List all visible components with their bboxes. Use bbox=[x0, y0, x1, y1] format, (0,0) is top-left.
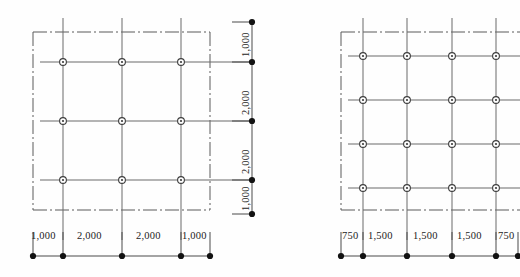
dimension-dot bbox=[360, 253, 366, 259]
dimension-label-h2: 1,500 bbox=[368, 231, 393, 242]
dimension-label-h5: 750 bbox=[498, 231, 514, 242]
column-grid-plan-right: 750 1,500 1,500 1,500 750 bbox=[320, 0, 520, 277]
dimension-dot bbox=[60, 253, 66, 259]
drawing-sheet: 1,000 2,000 2,000 1,000 1,000 2,000 2,00… bbox=[0, 0, 520, 277]
dimension-dot bbox=[249, 118, 255, 124]
left-grid-lines bbox=[40, 18, 252, 240]
dimension-label-h4: 1,500 bbox=[457, 231, 482, 242]
right-column-markers bbox=[360, 53, 500, 192]
dimension-dot bbox=[178, 253, 184, 259]
dimension-dot bbox=[249, 211, 255, 217]
dimension-dot bbox=[493, 253, 499, 259]
dimension-dot bbox=[338, 253, 344, 259]
dimension-dot bbox=[119, 253, 125, 259]
dimension-label-h2: 2,000 bbox=[77, 231, 102, 242]
dimension-label-v4: 1,000 bbox=[241, 186, 252, 211]
right-column-marker-centers bbox=[362, 55, 497, 189]
column-grid-plan-left: 1,000 2,000 2,000 1,000 1,000 2,000 2,00… bbox=[0, 0, 270, 277]
dimension-label-v1: 1,000 bbox=[241, 32, 252, 57]
right-grid-lines bbox=[348, 18, 520, 240]
dimension-dot bbox=[30, 253, 36, 259]
dimension-dot bbox=[249, 59, 255, 65]
dimension-label-v2: 2,000 bbox=[241, 90, 252, 115]
dimension-label-v3: 2,000 bbox=[241, 149, 252, 174]
dimension-label-h3: 1,500 bbox=[413, 231, 438, 242]
dimension-dot bbox=[249, 177, 255, 183]
dimension-label-h4: 1,000 bbox=[182, 231, 207, 242]
dimension-dot bbox=[207, 253, 213, 259]
dimension-dot bbox=[404, 253, 410, 259]
dimension-label-h1: 1,000 bbox=[31, 231, 56, 242]
dimension-label-h3: 2,000 bbox=[136, 231, 161, 242]
dimension-dot bbox=[249, 19, 255, 25]
dimension-dot bbox=[515, 253, 520, 259]
dimension-dot bbox=[449, 253, 455, 259]
dimension-label-h1: 750 bbox=[342, 231, 358, 242]
